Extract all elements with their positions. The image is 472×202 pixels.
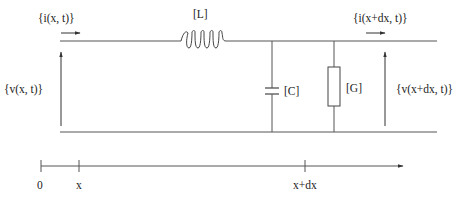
x-axis <box>41 160 403 172</box>
axis-label-x: x <box>76 179 82 191</box>
axis-label-0: 0 <box>37 179 43 191</box>
circuit-diagram: {i(x, t)} [L] {i(x+dx, t)} [C] [G] {v(x,… <box>0 0 472 202</box>
current-in-label: {i(x, t)} <box>38 12 75 25</box>
conductance-label: [G] <box>346 82 362 94</box>
inductor-icon <box>181 31 226 49</box>
voltage-in-label: {v(x, t)} <box>4 83 43 96</box>
axis-label-x-dx: x+dx <box>293 179 317 191</box>
voltage-out-label: {v(x+dx, t)} <box>396 83 453 96</box>
capacitor-icon <box>265 41 279 132</box>
capacitor-label: [C] <box>284 85 299 97</box>
current-out-label: {i(x+dx, t)} <box>353 12 408 25</box>
inductor-label: [L] <box>193 8 208 20</box>
resistor-icon <box>328 41 340 132</box>
